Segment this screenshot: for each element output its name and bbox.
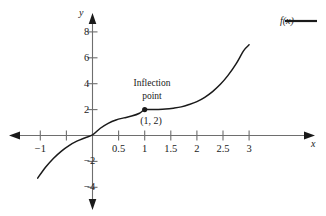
x-tick-label-1: 1 — [142, 144, 147, 155]
inflection-point-text-line2: point — [142, 92, 162, 102]
x-tick-label-3: 3 — [246, 144, 251, 155]
y-axis-label: y — [79, 8, 83, 18]
y-axis-top-arrowhead — [89, 13, 97, 24]
inflection-point-coord-label: (1, 2) — [140, 116, 162, 126]
y-tick-label--4: −4 — [84, 182, 95, 193]
x-tick-label--1: −1 — [35, 144, 46, 155]
y-axis-bottom-arrowhead — [89, 199, 97, 210]
y-tick-label-2: 2 — [84, 104, 89, 115]
y-tick-label-6: 6 — [84, 53, 89, 64]
x-tick-label-1p5: 1.5 — [164, 144, 177, 155]
inflection-point-text-line1: Inflection — [134, 79, 171, 89]
x-axis — [9, 132, 315, 140]
inflection-point-marker — [142, 107, 147, 112]
y-tick-label-4: 4 — [84, 78, 89, 89]
chart-figure: −1 0.5 1 1.5 2 2.5 3 8 6 4 2 −2 −4 y x I… — [0, 0, 326, 216]
x-axis-left-arrowhead — [9, 132, 20, 140]
x-tick-label-2p5: 2.5 — [216, 144, 229, 155]
y-tick-label--2: −2 — [84, 156, 95, 167]
legend-entry-label: f(x) — [280, 16, 294, 26]
y-tick-label-8: 8 — [84, 27, 89, 38]
plot-canvas — [0, 0, 326, 216]
x-tick-label-0p5: 0.5 — [112, 144, 125, 155]
x-tick-label-2: 2 — [194, 144, 199, 155]
x-axis-label: x — [311, 139, 315, 149]
